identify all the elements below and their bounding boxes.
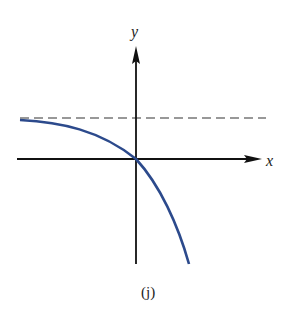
function-curve: [20, 120, 189, 264]
figure-caption: (j): [141, 284, 155, 301]
y-axis-label: y: [129, 23, 139, 41]
graph-diagram: y x (j): [0, 0, 288, 317]
x-axis-label: x: [265, 152, 273, 169]
